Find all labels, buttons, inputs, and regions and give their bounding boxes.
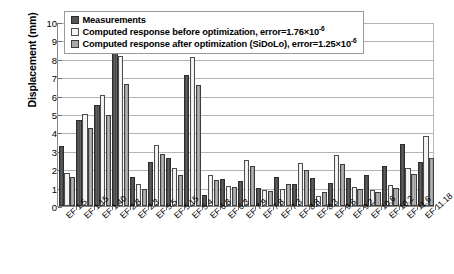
chart-legend: Measurements Computed response before op…: [64, 11, 364, 54]
bar: [100, 95, 105, 206]
y-axis-ticks: 012345678910: [23, 23, 57, 207]
y-tick-label: 2: [31, 165, 57, 176]
x-axis-labels: EF 1.5EF 1.15EF 1.40EF 2.8EF 2.3EF 5.5EF…: [57, 207, 434, 274]
legend-label-0: Measurements: [83, 15, 146, 25]
y-tick-label: 3: [31, 146, 57, 157]
bar: [184, 75, 189, 206]
y-tick-label: 10: [31, 18, 57, 29]
y-tick-label: 5: [31, 110, 57, 121]
bar: [124, 84, 129, 206]
bar: [250, 166, 255, 206]
bar-group: [399, 23, 417, 206]
legend-label-1: Computed response before optimization, e…: [83, 27, 325, 37]
bar: [76, 120, 81, 206]
bar: [82, 114, 87, 206]
bar: [94, 105, 99, 206]
legend-exponent: -6: [319, 25, 325, 32]
bar-group: [417, 23, 435, 206]
bar: [88, 128, 93, 206]
bar: [59, 146, 64, 206]
legend-item-after-optimization: Computed response after optimization (Si…: [71, 38, 357, 50]
bar: [106, 115, 111, 206]
bar: [304, 170, 309, 206]
bar: [340, 164, 345, 206]
bar: [64, 173, 69, 206]
bar-group: [381, 23, 399, 206]
legend-swatch-icon: [71, 16, 79, 24]
bar: [190, 57, 195, 206]
bar: [196, 85, 201, 206]
legend-exponent: -6: [351, 37, 357, 44]
legend-swatch-icon: [71, 28, 79, 36]
bar: [178, 175, 183, 206]
legend-item-before-optimization: Computed response before optimization, e…: [71, 26, 357, 38]
y-tick-label: 8: [31, 54, 57, 65]
bar-group: [363, 23, 381, 206]
y-tick-label: 6: [31, 91, 57, 102]
y-tick-label: 4: [31, 128, 57, 139]
y-tick-label: 7: [31, 73, 57, 84]
bar: [160, 154, 165, 206]
bar: [118, 56, 123, 206]
y-tick-label: 1: [31, 183, 57, 194]
y-tick-label: 0: [31, 202, 57, 213]
legend-item-measurements: Measurements: [71, 14, 357, 26]
bar: [112, 42, 117, 206]
legend-swatch-icon: [71, 40, 79, 48]
legend-label-2: Computed response after optimization (Si…: [83, 39, 357, 49]
y-tick-label: 9: [31, 36, 57, 47]
